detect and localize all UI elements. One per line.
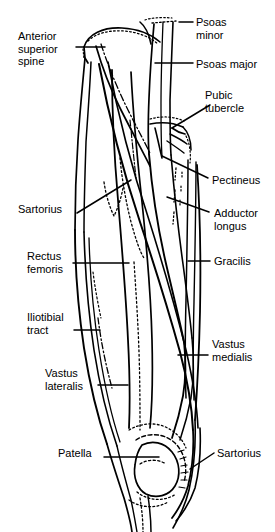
label-pectineus: Pectineus [212,174,260,187]
inguinal-dotted [150,117,184,121]
iliacus-outline [96,46,150,166]
adductor-speckles [180,172,182,206]
label-vastus-lateralis: Vastus lateralis [45,367,83,392]
label-sartorius-upper: Sartorius [18,203,62,216]
lateral-knee-border-inner [117,446,137,532]
adductor-longus-medial [171,155,192,338]
label-sartorius-lower: Sartorius [217,447,261,460]
label-psoas-major: Psoas major [196,58,257,71]
adductor-longus-lateral [149,154,184,342]
vastus-intermedius-dotted-v [104,182,124,216]
patellar-tendon [148,496,151,532]
rectus-femoris-dotted-mid [120,158,144,258]
suprapatellar-dotted [129,424,186,448]
label-psoas-minor: Psoas minor [196,16,227,41]
lateral-thigh-contour [75,230,107,444]
label-iliotibial-tract: Iliotibial tract [27,311,64,336]
label-rectus-femoris: Rectus femoris [27,250,63,275]
label-pubic-tubercle: Pubic tubercle [205,89,244,114]
label-anterior-superior-spine: Anterior superior spine [18,30,58,68]
rectus-aponeurosis-dotted [134,262,140,430]
patella-outline [134,442,178,496]
iliotibial-tract-inner [89,238,120,442]
psoas-top-cap-dotted-2 [145,18,172,20]
label-vastus-medialis: Vastus medialis [212,338,252,363]
pubic-tubercle-mark [172,128,185,134]
label-gracilis: Gracilis [214,255,251,268]
label-adductor-longus: Adductor longus [214,207,258,232]
pubic-ramus-2 [167,141,184,153]
patella-inner-dashed [140,460,166,464]
iliacus-dotdash [101,44,150,153]
tibial-tuberosity-dotted [140,498,143,532]
psoas-minor-strip [161,22,163,156]
leader-pectineus [162,156,208,178]
lateral-hip-border [75,58,85,230]
vastus-medialis-converge-1 [172,342,185,438]
label-patella: Patella [58,447,92,460]
pubic-ramus-1 [170,134,187,144]
